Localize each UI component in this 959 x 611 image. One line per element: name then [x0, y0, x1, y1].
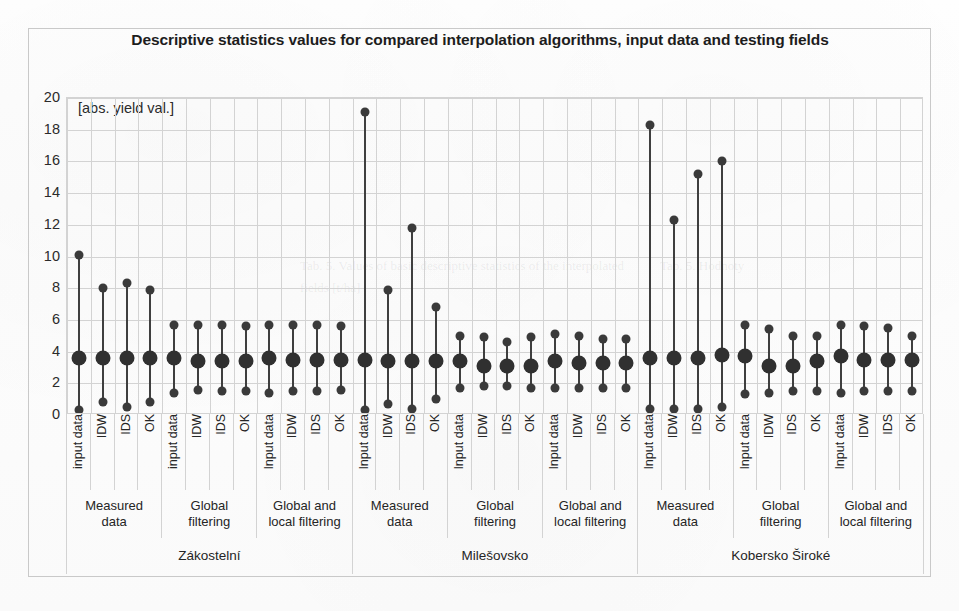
x-axis-algorithm-cell: input data	[162, 414, 186, 490]
marker-minimum	[241, 387, 250, 396]
marker-mean	[571, 355, 586, 370]
marker-mean	[738, 349, 753, 364]
gridline-horizontal	[67, 161, 922, 162]
marker-mean	[500, 358, 515, 373]
x-axis-algorithm-label: IDW	[96, 414, 109, 441]
x-axis-algorithm-label: IDS	[501, 414, 514, 438]
range-stem	[387, 290, 389, 404]
marker-mean	[833, 349, 848, 364]
x-axis-method-label: Global andlocal filtering	[266, 498, 342, 531]
y-axis-tick-16: 16	[26, 152, 60, 168]
marker-mean	[190, 354, 205, 369]
x-axis-algorithm-cell: IDS	[400, 414, 424, 490]
x-axis-algorithm-cell: input data	[67, 414, 91, 490]
marker-mean	[881, 352, 896, 367]
marker-maximum	[574, 331, 583, 340]
marker-maximum	[646, 120, 655, 129]
x-axis-method-cell: Global andlocal filtering	[829, 490, 924, 538]
x-axis-algorithm-label: OK	[429, 414, 442, 435]
marker-mean	[286, 352, 301, 367]
gridline-vertical	[757, 98, 758, 413]
x-axis-algorithm-cell: Input data	[734, 414, 758, 490]
marker-mean	[333, 352, 348, 367]
x-axis-algorithm-label: IDS	[691, 414, 704, 438]
gridline-vertical	[353, 98, 354, 413]
marker-maximum	[455, 331, 464, 340]
marker-minimum	[431, 395, 440, 404]
marker-minimum	[884, 387, 893, 396]
range-stem	[649, 125, 651, 409]
marker-mean	[619, 355, 634, 370]
range-stem	[102, 288, 104, 402]
marker-mean	[405, 354, 420, 369]
x-axis-algorithm-label: input data	[167, 414, 180, 472]
x-axis-algorithm-cell: IDS	[115, 414, 139, 490]
gridline-vertical	[710, 98, 711, 413]
x-axis-method-label: Global andlocal filtering	[552, 498, 628, 531]
marker-mean	[690, 350, 705, 365]
marker-minimum	[336, 385, 345, 394]
marker-maximum	[860, 322, 869, 331]
marker-mean	[143, 350, 158, 365]
gridline-vertical	[662, 98, 663, 413]
gridline-vertical	[424, 98, 425, 413]
marker-maximum	[122, 279, 131, 288]
x-axis-algorithm-cell: Input data	[353, 414, 377, 490]
marker-minimum	[74, 406, 83, 413]
gridline-vertical	[305, 98, 306, 413]
marker-minimum	[312, 387, 321, 396]
marker-mean	[214, 354, 229, 369]
marker-minimum	[908, 387, 917, 396]
gridline-horizontal	[67, 98, 922, 99]
marker-mean	[167, 350, 182, 365]
y-axis-tick-14: 14	[26, 184, 60, 200]
marker-maximum	[146, 285, 155, 294]
x-axis-algorithm-cell: OK	[329, 414, 353, 490]
x-axis-algorithm-cell: IDW	[757, 414, 781, 490]
marker-mean	[905, 352, 920, 367]
gridline-vertical	[376, 98, 377, 413]
gridline-horizontal	[67, 225, 922, 226]
marker-minimum	[693, 404, 702, 413]
x-axis-algorithm-cell: IDS	[876, 414, 900, 490]
y-axis-tick-4: 4	[26, 343, 60, 359]
marker-maximum	[217, 320, 226, 329]
marker-minimum	[384, 399, 393, 408]
range-stem	[721, 161, 723, 407]
marker-maximum	[265, 320, 274, 329]
x-axis-algorithm-label: IDS	[596, 414, 609, 438]
x-axis-field-cell: Kobersko Široké	[638, 538, 924, 574]
marker-mean	[71, 350, 86, 365]
marker-minimum	[765, 388, 774, 397]
y-axis-tick-18: 18	[26, 121, 60, 137]
marker-maximum	[884, 323, 893, 332]
x-axis-method-cell: Globalfiltering	[734, 490, 829, 538]
marker-maximum	[670, 216, 679, 225]
x-axis-algorithm-cell: IDS	[686, 414, 710, 490]
x-axis-method-cell: Global andlocal filtering	[543, 490, 638, 538]
marker-mean	[357, 352, 372, 367]
x-axis-method-cell: Measureddata	[67, 490, 162, 538]
gridline-vertical	[615, 98, 616, 413]
x-axis-method-band: MeasureddataGlobalfilteringGlobal andloc…	[66, 490, 923, 538]
gridline-vertical	[543, 98, 544, 413]
x-axis-algorithm-label: IDW	[477, 414, 490, 441]
x-axis-method-cell: Measureddata	[353, 490, 448, 538]
marker-mean	[786, 358, 801, 373]
gridline-vertical	[567, 98, 568, 413]
x-axis-algorithm-label: OK	[810, 414, 823, 435]
marker-mean	[524, 358, 539, 373]
gridline-vertical	[329, 98, 330, 413]
x-axis-algorithm-cell: OK	[519, 414, 543, 490]
x-axis-method-cell: Global andlocal filtering	[257, 490, 352, 538]
x-axis-algorithm-label: input data	[72, 414, 85, 472]
x-axis-algorithm-cell: IDS	[305, 414, 329, 490]
marker-maximum	[74, 250, 83, 259]
x-axis-method-label: Globalfiltering	[472, 498, 518, 531]
marker-mean	[309, 352, 324, 367]
marker-minimum	[289, 387, 298, 396]
y-axis-tick-2: 2	[26, 374, 60, 390]
y-axis-tick-20: 20	[26, 89, 60, 105]
marker-minimum	[122, 403, 131, 412]
marker-maximum	[384, 285, 393, 294]
